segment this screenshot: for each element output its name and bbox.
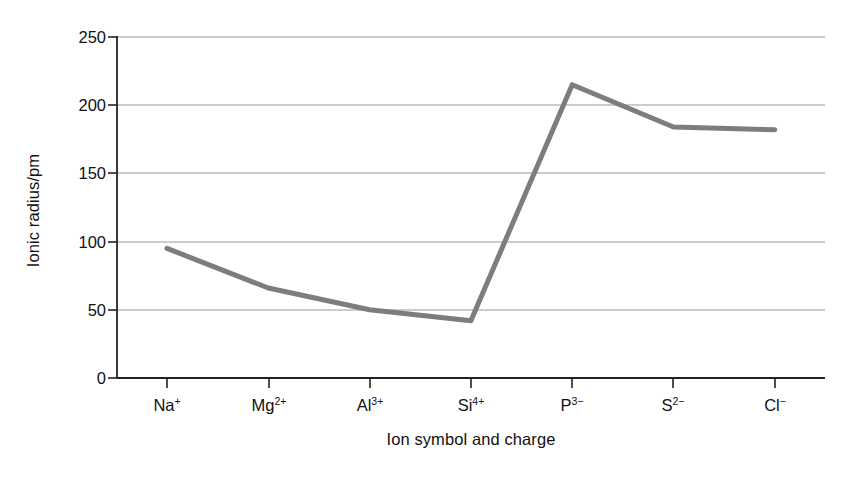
x-axis-ticks xyxy=(167,378,775,388)
data-series-line xyxy=(167,85,775,321)
x-tick-p-symbol: P xyxy=(561,396,572,414)
x-tick-na-charge: + xyxy=(174,395,180,407)
x-tick-al-charge: 3+ xyxy=(371,395,383,407)
x-tick-al: Al3+ xyxy=(357,396,384,415)
x-tick-p: P3− xyxy=(561,396,584,415)
y-tick-50: 50 xyxy=(88,301,106,320)
axis-lines xyxy=(117,36,825,379)
x-tick-cl-symbol: Cl xyxy=(764,396,780,414)
x-tick-si-symbol: Si xyxy=(458,396,473,414)
x-tick-al-symbol: Al xyxy=(357,396,372,414)
chart-plot-area xyxy=(0,0,849,477)
x-axis-title: Ion symbol and charge xyxy=(117,430,825,449)
x-tick-p-charge: 3− xyxy=(572,395,584,407)
x-tick-s: S2− xyxy=(662,396,685,415)
x-tick-s-charge: 2− xyxy=(673,395,685,407)
x-tick-mg: Mg2+ xyxy=(252,396,287,415)
x-tick-cl: Cl− xyxy=(764,396,786,415)
x-tick-si: Si4+ xyxy=(458,396,485,415)
x-tick-si-charge: 4+ xyxy=(472,395,484,407)
x-tick-cl-charge: − xyxy=(780,395,786,407)
y-tick-0: 0 xyxy=(97,369,106,388)
x-tick-na-symbol: Na xyxy=(153,396,174,414)
y-tick-150: 150 xyxy=(78,164,106,183)
y-tick-100: 100 xyxy=(78,233,106,252)
x-tick-mg-charge: 2+ xyxy=(274,395,286,407)
ionic-radius-line-chart: 250 200 150 100 50 0 Ionic radius/pm Na+… xyxy=(0,0,849,477)
y-tick-200: 200 xyxy=(78,96,106,115)
y-axis-tick-labels: 250 200 150 100 50 0 xyxy=(48,0,106,477)
y-axis-ticks xyxy=(108,37,117,378)
x-tick-s-symbol: S xyxy=(662,396,673,414)
y-tick-250: 250 xyxy=(78,28,106,47)
x-tick-na: Na+ xyxy=(153,396,180,415)
x-tick-mg-symbol: Mg xyxy=(252,396,275,414)
